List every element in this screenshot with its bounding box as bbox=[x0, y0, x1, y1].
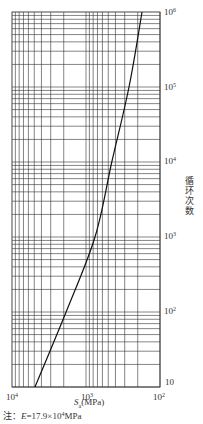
y-axis-title: 循环次数 bbox=[183, 176, 196, 216]
x-axis-title: Sa(MPa) bbox=[74, 397, 104, 409]
y-tick-1e4: 104 bbox=[164, 154, 176, 166]
x-tick-1e4: 104 bbox=[6, 390, 18, 402]
chart-note: 注：E=17.9×104MPa bbox=[3, 409, 81, 422]
y-tick-1e6: 106 bbox=[164, 5, 176, 17]
grid-lines bbox=[12, 12, 160, 387]
y-tick-1e3: 103 bbox=[164, 229, 176, 241]
fatigue-curve bbox=[35, 12, 142, 387]
x-tick-1e2: 102 bbox=[153, 390, 165, 402]
y-tick-1e2: 102 bbox=[164, 304, 176, 316]
y-tick-1e5: 105 bbox=[164, 80, 176, 92]
fatigue-chart bbox=[0, 0, 203, 424]
y-tick-10: 10 bbox=[165, 375, 174, 387]
